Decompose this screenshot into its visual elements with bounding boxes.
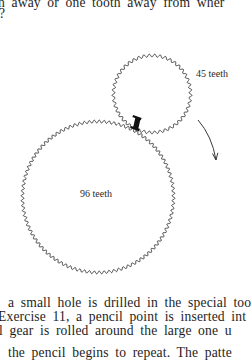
small-gear-label: 45 teeth [196, 68, 228, 79]
large-gear-label: 96 teeth [80, 188, 112, 199]
paragraph-line: Exercise 11, a pencil point is inserted … [0, 310, 246, 324]
paragraph-line: the pencil begins to repeat. The patte [8, 346, 232, 360]
small-gear [112, 54, 192, 134]
paragraph-line: a small hole is drilled in the special t… [8, 296, 251, 310]
paragraph-line: l gear is rolled around the large one u [0, 324, 232, 338]
rotation-arrow-icon [198, 120, 218, 160]
